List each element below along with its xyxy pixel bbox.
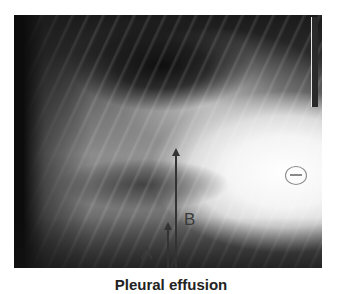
arrow-a-label: A xyxy=(141,244,152,264)
arrow-a-shaft xyxy=(167,229,169,268)
figure-caption: Pleural effusion xyxy=(0,276,342,294)
circular-marker-icon xyxy=(285,166,307,185)
arrow-b-shaft xyxy=(175,155,177,268)
arrow-a-head-icon xyxy=(164,222,172,230)
chest-xray-image: A B xyxy=(14,15,322,268)
arrow-b-label: B xyxy=(184,210,195,230)
film-marker-strip xyxy=(311,17,318,107)
arrow-b-head-icon xyxy=(172,148,180,156)
